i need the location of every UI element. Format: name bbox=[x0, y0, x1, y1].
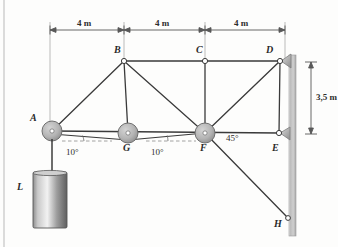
pin-d bbox=[277, 58, 282, 63]
truss-figure: A B C D E F G H L 4 m 4 m 4 m 3,5 m 10° … bbox=[0, 0, 338, 247]
pin-e bbox=[276, 130, 281, 135]
cable-a-g bbox=[52, 134, 128, 140]
pulley-f-axle bbox=[203, 131, 207, 135]
support-wall bbox=[289, 55, 296, 236]
member-ab bbox=[52, 61, 124, 131]
joint-label-f: F bbox=[200, 143, 207, 153]
cable-g-f bbox=[128, 133, 205, 140]
load-assembly bbox=[33, 139, 67, 228]
truss-members bbox=[52, 61, 288, 218]
member-de bbox=[279, 61, 280, 133]
member-ae bbox=[52, 131, 279, 133]
dimension-label-ab: 4 m bbox=[77, 19, 91, 28]
load-label-l: L bbox=[17, 182, 23, 192]
pulley-a-axle bbox=[50, 129, 54, 133]
angle-label-fh: 45° bbox=[226, 134, 239, 143]
pulley-g-axle bbox=[126, 131, 130, 135]
joint-label-g: G bbox=[123, 143, 130, 153]
pin-h bbox=[286, 216, 291, 221]
dimension-label-cd: 4 m bbox=[234, 19, 248, 28]
dimension-label-wall-height: 3,5 m bbox=[316, 93, 337, 102]
dimension-extension-lines bbox=[50, 22, 285, 128]
joint-label-c: C bbox=[196, 45, 203, 55]
member-bf bbox=[124, 61, 205, 133]
truss-drawing bbox=[0, 0, 338, 247]
load-cylinder-top bbox=[33, 170, 67, 175]
load-cylinder bbox=[33, 172, 67, 228]
joint-label-h: H bbox=[274, 219, 282, 229]
pin-b bbox=[121, 58, 126, 63]
pin-c bbox=[202, 58, 207, 63]
member-bg bbox=[124, 61, 128, 133]
member-df bbox=[205, 61, 280, 133]
angle-label-gf: 10° bbox=[151, 148, 164, 157]
dimension-label-bc: 4 m bbox=[155, 19, 169, 28]
joint-label-a: A bbox=[30, 113, 37, 123]
joint-label-e: E bbox=[272, 143, 279, 153]
joint-label-b: B bbox=[114, 45, 121, 55]
angle-label-ag: 10° bbox=[66, 148, 79, 157]
joint-label-d: D bbox=[266, 45, 273, 55]
